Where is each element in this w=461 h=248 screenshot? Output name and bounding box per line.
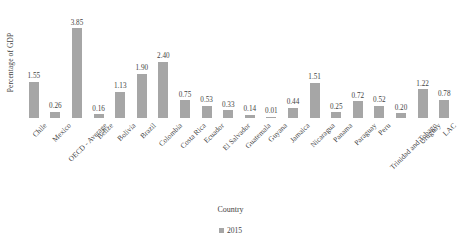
bar-nicaragua[interactable]: 1.51 [304, 6, 326, 118]
bar-value-label: 0.78 [438, 90, 451, 98]
bar-rect[interactable] [331, 112, 341, 118]
bar-chile[interactable]: 1.55 [23, 6, 45, 118]
bar-value-label: 0.72 [352, 92, 365, 100]
bar-guyana[interactable]: 0.01 [261, 6, 283, 118]
bar-mexico[interactable]: 0.26 [45, 6, 67, 118]
bar-peru[interactable]: 0.52 [369, 6, 391, 118]
bar-rect[interactable] [29, 82, 39, 118]
bar-value-label: 2.40 [157, 52, 170, 60]
bar-colombia[interactable]: 2.40 [153, 6, 175, 118]
y-axis-title-label: Percentage of GDP [7, 33, 16, 93]
bar-value-label: 0.01 [265, 107, 278, 115]
bar-value-label: 0.20 [395, 104, 408, 112]
bar-brazil[interactable]: 1.90 [131, 6, 153, 118]
x-tick-label-slot: Bolivia [109, 119, 131, 204]
bar-trinidad-and-tobago[interactable]: 0.20 [390, 6, 412, 118]
bar-value-label: 1.13 [114, 82, 127, 90]
bar-value-label: 0.26 [49, 102, 62, 110]
bar-rect[interactable] [266, 117, 276, 119]
bar-rect[interactable] [202, 106, 212, 118]
legend-swatch-2015 [219, 228, 224, 233]
x-tick-label-slot: LAC [433, 119, 455, 204]
bar-value-label: 1.90 [136, 64, 149, 72]
x-tick-label-slot: Panama [325, 119, 347, 204]
bar-rect[interactable] [439, 100, 449, 118]
bar-rect[interactable] [374, 106, 384, 118]
bar-rect[interactable] [288, 108, 298, 118]
bar-value-label: 0.53 [200, 96, 213, 104]
bar-paraguay[interactable]: 0.72 [347, 6, 369, 118]
bar-rect[interactable] [223, 110, 233, 118]
bar-el-salvador[interactable]: 0.33 [217, 6, 239, 118]
bar-value-label: 0.44 [287, 98, 300, 106]
bar-uruguay[interactable]: 1.22 [412, 6, 434, 118]
chart-legend: 2015 [0, 226, 461, 235]
bar-value-label: 0.75 [179, 91, 192, 99]
x-tick-label-slot: Colombia [153, 119, 175, 204]
bar-value-label: 1.22 [416, 80, 429, 88]
bar-value-label: 1.51 [308, 73, 321, 81]
bar-rect[interactable] [115, 92, 125, 118]
bar-jamaica[interactable]: 0.44 [282, 6, 304, 118]
x-tick-label-slot: Jamaica [282, 119, 304, 204]
bar-rect[interactable] [180, 100, 190, 118]
x-tick-label-slot: Trinidad and Tobago [390, 119, 412, 204]
bar-chart: Percentage of GDP 1.550.263.850.161.131.… [0, 0, 461, 248]
y-axis-title: Percentage of GDP [0, 0, 22, 125]
bar-rect[interactable] [245, 115, 255, 118]
bar-rect[interactable] [72, 28, 82, 118]
x-axis-title: Country [0, 205, 461, 214]
bar-value-label: 0.25 [330, 103, 343, 111]
x-axis-tick-labels: ChileMexicoOECD - AverageBelizeBoliviaBr… [23, 119, 455, 204]
bar-belize[interactable]: 0.16 [88, 6, 110, 118]
x-tick-label-slot: OECD - Average [66, 119, 88, 204]
x-tick-label-slot: Costa Rica [174, 119, 196, 204]
bar-rect[interactable] [353, 101, 363, 118]
bar-ecuador[interactable]: 0.53 [196, 6, 218, 118]
legend-label-2015: 2015 [227, 226, 242, 235]
bar-value-label: 0.33 [222, 101, 235, 109]
bar-rect[interactable] [396, 113, 406, 118]
bar-panama[interactable]: 0.25 [325, 6, 347, 118]
bar-rect[interactable] [418, 89, 428, 118]
x-tick-label-slot: Ecuador [196, 119, 218, 204]
x-tick-label-slot: Mexico [45, 119, 67, 204]
x-tick-label-slot: Brazil [131, 119, 153, 204]
bar-rect[interactable] [158, 62, 168, 118]
bar-rect[interactable] [310, 83, 320, 118]
bar-rect[interactable] [94, 114, 104, 118]
x-tick-label-slot: El Salvador [217, 119, 239, 204]
x-tick-label-slot: Belize [88, 119, 110, 204]
bar-value-label: 1.55 [28, 72, 41, 80]
bar-value-label: 0.52 [373, 96, 386, 104]
bar-value-label: 0.16 [92, 105, 105, 113]
bar-rect[interactable] [50, 112, 60, 118]
bar-bolivia[interactable]: 1.13 [109, 6, 131, 118]
bar-rect[interactable] [137, 74, 147, 118]
x-tick-label-slot: Guyana [261, 119, 283, 204]
bar-lac[interactable]: 0.78 [433, 6, 455, 118]
x-tick-label-slot: Guatemala [239, 119, 261, 204]
bar-value-label: 3.85 [71, 19, 84, 27]
bar-guatemala[interactable]: 0.14 [239, 6, 261, 118]
x-tick-label-slot: Chile [23, 119, 45, 204]
bar-oecd-average[interactable]: 3.85 [66, 6, 88, 118]
x-tick-label-slot: Peru [369, 119, 391, 204]
x-tick-label-slot: Nicaragua [304, 119, 326, 204]
x-tick-label: LAC [441, 121, 458, 138]
bar-costa-rica[interactable]: 0.75 [174, 6, 196, 118]
bar-value-label: 0.14 [244, 105, 257, 113]
x-tick-label-slot: Paraguay [347, 119, 369, 204]
x-tick-label-slot: Uruguay [412, 119, 434, 204]
plot-area: 1.550.263.850.161.131.902.400.750.530.33… [23, 6, 455, 118]
